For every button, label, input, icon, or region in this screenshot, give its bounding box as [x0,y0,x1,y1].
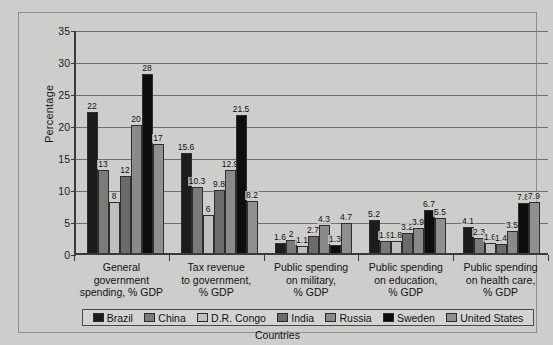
bar-slot: 21.5 [236,31,247,253]
bar[interactable] [308,236,319,253]
bar-slot: 4.7 [341,31,352,253]
bar[interactable] [391,241,402,253]
category-label-line: to government, [171,274,262,287]
bar[interactable] [496,244,507,253]
bar-slot: 4.1 [463,31,474,253]
bar[interactable] [435,218,446,253]
legend-swatch-icon [93,313,104,322]
bar[interactable] [330,245,341,253]
bar-group: 4.12.31.61.43.57.87.9 [454,31,548,253]
bar[interactable] [87,112,98,253]
legend-swatch-icon [277,313,288,322]
legend-item[interactable]: Sweden [383,312,435,324]
bar[interactable] [247,201,258,253]
bar-value-label: 4.7 [339,213,353,222]
y-axis-title: Percentage [43,85,55,143]
legend-item[interactable]: India [277,312,314,324]
category-label-line: spending, % GDP [76,286,167,299]
bar[interactable] [236,115,247,253]
bar[interactable] [142,74,153,253]
bar-slot: 13 [98,31,109,253]
bar-value-label: 8 [111,192,118,201]
bar-slot: 5.2 [369,31,380,253]
bar[interactable] [402,233,413,253]
y-tick-mark [71,31,76,32]
legend-swatch-icon [383,313,394,322]
bar-value-label: 5.5 [433,208,447,217]
bar-value-label: 13 [97,160,108,169]
legend-item[interactable]: Brazil [93,312,133,324]
bar-slot: 8 [109,31,120,253]
category-label-line: Public spending [360,261,451,274]
category-label: Generalgovernmentspending, % GDP [74,261,169,299]
bar[interactable] [203,215,214,253]
bar-slot: 3.5 [507,31,518,253]
bar-slot: 12.9 [225,31,236,253]
bar-slot: 7.8 [518,31,529,253]
y-tick-label: 5 [64,217,70,229]
legend-label: Sweden [397,312,435,324]
bar-slot: 9.8 [214,31,225,253]
bar[interactable] [518,203,529,253]
bar[interactable] [192,187,203,253]
bar[interactable] [120,176,131,253]
bar[interactable] [153,144,164,253]
category-label-line: % GDP [266,286,357,299]
bar[interactable] [214,190,225,253]
category-label: Tax revenueto government,% GDP [169,261,264,299]
bar[interactable] [341,223,352,253]
bar[interactable] [181,153,192,253]
y-tick-mark [71,159,76,160]
bar-group: 2213812202817 [78,31,172,253]
legend-item[interactable]: D.R. Congo [197,312,266,324]
bar[interactable] [380,241,391,253]
y-tick-mark [71,95,76,96]
category-label: Public spendingon health care,% GDP [453,261,548,299]
plot-area: 05101520253035 221381220281715.610.369.8… [74,31,548,255]
bar[interactable] [529,202,540,253]
bar-slot: 6 [203,31,214,253]
bar[interactable] [413,228,424,253]
category-tick [548,255,549,261]
bar[interactable] [275,243,286,253]
bar[interactable] [98,170,109,253]
bar[interactable] [109,202,120,253]
bar-value-label: 22 [86,102,97,111]
bar[interactable] [507,231,518,253]
category-label-line: % GDP [455,286,546,299]
category-label-line: % GDP [360,286,451,299]
y-tick-mark [71,63,76,64]
bar-value-label: 12 [119,166,130,175]
bar-value-label: 2 [288,230,295,239]
legend-label: China [158,312,185,324]
bar[interactable] [131,125,142,253]
y-tick-label: 30 [58,57,70,69]
bar-value-label: 8.2 [245,191,259,200]
legend-item[interactable]: China [144,312,185,324]
bar-value-label: 28 [141,64,152,73]
bar-slot: 12 [120,31,131,253]
legend-item[interactable]: Russia [325,312,371,324]
bar-slot: 5.5 [435,31,446,253]
y-tick-label: 25 [58,89,70,101]
bar-slot: 15.6 [181,31,192,253]
bar[interactable] [485,243,496,253]
legend-label: Russia [339,312,371,324]
category-label-line: General [76,261,167,274]
legend-swatch-icon [144,313,155,322]
chart-screenshot: Percentage 05101520253035 22138122028171… [0,0,553,345]
legend-item[interactable]: United States [446,312,523,324]
y-tick-label: 15 [58,153,70,165]
category-label-line: on education, [360,274,451,287]
bar-slot: 17 [153,31,164,253]
bar-groups: 221381220281715.610.369.812.921.58.21.62… [78,31,548,253]
bar[interactable] [297,246,308,253]
bar[interactable] [225,170,236,253]
bar-value-label: 20 [130,115,141,124]
category-label-line: Public spending [455,261,546,274]
x-axis-title: Countries [19,329,536,341]
bar-slot: 2.3 [474,31,485,253]
bar-group: 5.21.91.83.23.96.75.5 [360,31,454,253]
legend-label: D.R. Congo [211,312,266,324]
category-label-line: on military, [266,274,357,287]
